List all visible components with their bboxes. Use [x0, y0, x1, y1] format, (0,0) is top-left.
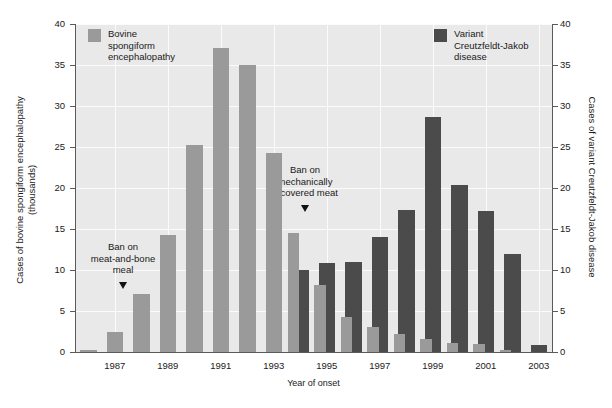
- x-axis-title: Year of onset: [75, 378, 552, 388]
- y-tick-right: [553, 188, 558, 189]
- y-tick-right: [553, 311, 558, 312]
- bar-bse-1991: [213, 48, 229, 352]
- x-tick-label-2003: 2003: [519, 361, 559, 371]
- gridline-vertical: [115, 24, 116, 352]
- bar-vcjd-1998: [398, 210, 414, 352]
- y-tick-left: [70, 24, 75, 25]
- legend-label-vcjd: Variant Creutzfeldt-Jakob disease: [454, 28, 528, 63]
- bar-vcjd-2000: [451, 185, 467, 352]
- bar-vcjd-2003: [531, 345, 547, 352]
- y-tick-right: [553, 65, 558, 66]
- gridline-horizontal: [75, 65, 552, 66]
- annotation-arrow-mbm-icon: [118, 282, 127, 336]
- y-axis-left-line: [75, 24, 76, 353]
- y-tick-right: [553, 229, 558, 230]
- x-tick-label-1989: 1989: [148, 361, 188, 371]
- x-tick-label-1993: 1993: [254, 361, 294, 371]
- bar-bse-1999: [420, 339, 432, 352]
- y-axis-right-title: Cases of variant Creutzfeldt-Jakob disea…: [572, 22, 598, 352]
- bar-bse-1995: [314, 285, 326, 352]
- bar-bse-2002: [500, 350, 512, 352]
- bar-bse-1990: [186, 145, 202, 352]
- x-tick-label-2001: 2001: [466, 361, 506, 371]
- bar-vcjd-2002: [504, 254, 520, 352]
- x-tick-label-1999: 1999: [413, 361, 453, 371]
- bar-bse-1996: [341, 317, 353, 352]
- bar-bse-1989: [160, 235, 176, 352]
- gridline-horizontal: [75, 24, 552, 25]
- y-tick-right: [553, 270, 558, 271]
- y-tick-right: [553, 352, 558, 353]
- x-axis-line: [75, 352, 553, 353]
- y-axis-left-title: Cases of bovine spongiform encephalopath…: [14, 25, 40, 355]
- bar-bse-1998: [394, 334, 406, 352]
- annotation-arrow-mrm-icon: [300, 205, 309, 293]
- x-tick-label-1995: 1995: [307, 361, 347, 371]
- bar-bse-1994: [288, 233, 300, 352]
- x-tick-label-1991: 1991: [201, 361, 241, 371]
- gridline-horizontal: [75, 106, 552, 107]
- y-tick-right: [553, 24, 558, 25]
- y-tick-left: [70, 352, 75, 353]
- bar-bse-1988: [133, 294, 149, 352]
- legend-swatch-vcjd-icon: [434, 29, 447, 42]
- y-tick-left: [70, 311, 75, 312]
- bar-bse-1987: [107, 332, 123, 353]
- bar-bse-1992: [239, 65, 255, 352]
- x-tick-label-1987: 1987: [95, 361, 135, 371]
- y-tick-left: [70, 188, 75, 189]
- bar-vcjd-1999: [425, 117, 441, 352]
- gridline-vertical: [539, 24, 540, 352]
- y-tick-left: [70, 270, 75, 271]
- y-tick-right: [553, 147, 558, 148]
- x-tick-label-1997: 1997: [360, 361, 400, 371]
- bar-bse-1997: [367, 327, 379, 352]
- legend-entry-vcjd: Variant Creutzfeldt-Jakob disease: [434, 28, 528, 63]
- bar-vcjd-2001: [478, 211, 494, 352]
- y-tick-left: [70, 147, 75, 148]
- bar-bse-1986: [80, 350, 96, 352]
- annotation-ban-meat-and-bone-meal: Ban on meat-and-bone meal: [78, 241, 168, 276]
- gridline-horizontal: [75, 147, 552, 148]
- bar-bse-2001: [473, 344, 485, 352]
- bse-vcjd-chart: 0055101015152020252530303535404019871989…: [0, 0, 612, 408]
- legend-entry-bse: Bovine spongiform encephalopathy: [88, 28, 175, 63]
- legend-label-bse: Bovine spongiform encephalopathy: [108, 28, 175, 63]
- bar-bse-2000: [447, 343, 459, 352]
- legend-swatch-bse-icon: [88, 29, 101, 42]
- y-tick-left: [70, 106, 75, 107]
- y-tick-left: [70, 65, 75, 66]
- y-tick-right: [553, 106, 558, 107]
- bar-bse-1993: [266, 153, 282, 352]
- y-tick-left: [70, 229, 75, 230]
